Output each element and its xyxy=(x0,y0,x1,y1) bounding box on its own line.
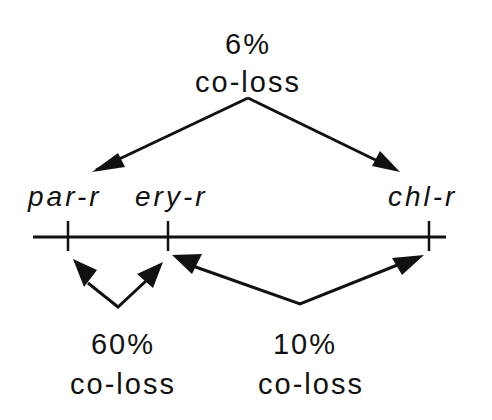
lower-left-coloss-arrows xyxy=(73,259,163,307)
gene-label-ery-r: ery-r xyxy=(135,183,208,211)
arrowhead-up-right-icon xyxy=(392,255,424,275)
top-percent: 6% xyxy=(198,30,298,59)
lower-left-percent: 60% xyxy=(73,330,173,359)
lower-right-percent: 10% xyxy=(255,330,355,359)
lower-left-coloss-label: co-loss xyxy=(48,370,198,399)
arrowhead-left-icon xyxy=(92,153,125,172)
arrowhead-up-left-icon xyxy=(73,259,97,287)
gene-label-par-r: par-r xyxy=(28,183,102,211)
arrowhead-right-icon xyxy=(372,151,400,172)
lower-right-coloss-label: co-loss xyxy=(236,370,386,399)
top-coloss-label: co-loss xyxy=(173,68,323,97)
gene-label-chl-r: chl-r xyxy=(388,183,457,211)
top-coloss-arrows xyxy=(92,98,400,172)
lower-right-coloss-arrows xyxy=(172,254,424,304)
arrowhead-up-left-icon xyxy=(172,254,202,274)
